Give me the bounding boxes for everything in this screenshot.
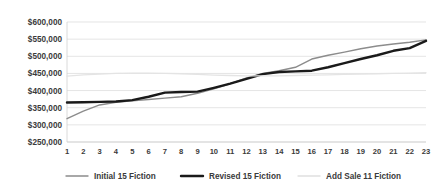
- legend-label-0: Initial 15 Fiction: [94, 172, 156, 181]
- x-tick-label-2: 2: [81, 147, 85, 156]
- x-tick-label-16: 16: [308, 147, 316, 156]
- y-tick-label-550000: $550,000: [28, 35, 63, 44]
- x-tick-label-1: 1: [65, 147, 70, 156]
- x-tick-label-10: 10: [210, 147, 218, 156]
- x-tick-label-19: 19: [357, 147, 365, 156]
- x-tick-label-3: 3: [98, 147, 102, 156]
- chart-legend: Initial 15 FictionRevised 15 FictionAdd …: [66, 172, 401, 181]
- x-tick-label-17: 17: [324, 147, 332, 156]
- y-tick-label-400000: $400,000: [28, 87, 63, 96]
- y-tick-label-450000: $450,000: [28, 69, 63, 78]
- x-tick-label-22: 22: [405, 147, 413, 156]
- data-series-group: [67, 40, 426, 119]
- y-axis-tick-labels: $250,000$300,000$350,000$400,000$450,000…: [28, 18, 63, 147]
- y-tick-label-350000: $350,000: [28, 104, 63, 113]
- legend-label-2: Add Sale 11 Fiction: [326, 172, 401, 181]
- y-tick-label-250000: $250,000: [28, 138, 63, 147]
- x-tick-label-6: 6: [146, 147, 150, 156]
- x-tick-label-5: 5: [130, 147, 135, 156]
- x-tick-label-11: 11: [226, 147, 235, 156]
- y-tick-label-500000: $500,000: [28, 52, 63, 61]
- x-tick-label-15: 15: [291, 147, 300, 156]
- y-tick-label-600000: $600,000: [28, 18, 63, 27]
- x-axis-tick-labels: 1234567891011121314151617181920212223: [65, 147, 430, 156]
- x-tick-label-4: 4: [114, 147, 119, 156]
- x-tick-label-13: 13: [259, 147, 267, 156]
- x-tick-label-18: 18: [340, 147, 348, 156]
- x-tick-label-12: 12: [242, 147, 250, 156]
- x-tick-label-9: 9: [195, 147, 199, 156]
- x-tick-label-14: 14: [275, 147, 284, 156]
- x-tick-label-23: 23: [422, 147, 430, 156]
- y-tick-label-300000: $300,000: [28, 121, 63, 130]
- legend-label-1: Revised 15 Fiction: [209, 172, 281, 181]
- gridlines: [67, 22, 426, 142]
- series-line-revised-15-fiction: [67, 41, 426, 103]
- x-tick-label-7: 7: [163, 147, 167, 156]
- x-tick-label-8: 8: [179, 147, 183, 156]
- x-tick-label-21: 21: [389, 147, 398, 156]
- chart-canvas: $250,000$300,000$350,000$400,000$450,000…: [0, 0, 441, 191]
- line-chart: $250,000$300,000$350,000$400,000$450,000…: [0, 0, 441, 191]
- x-tick-label-20: 20: [373, 147, 381, 156]
